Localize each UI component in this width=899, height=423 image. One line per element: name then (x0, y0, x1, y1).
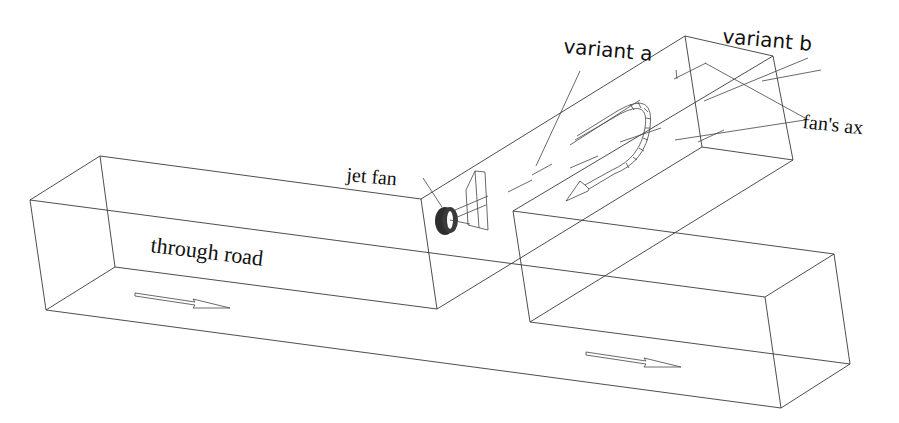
tunnel-wireframe: through road jet fan variant a variant b… (0, 0, 899, 423)
fan-axis-markers (508, 63, 821, 192)
through-road-box-left (30, 156, 781, 408)
label-variant-b: variant b (722, 24, 813, 56)
branch-tunnel-box (421, 36, 793, 322)
label-through-road: through road (149, 232, 264, 271)
flow-arrow-left (135, 293, 230, 308)
diagram-canvas: through road jet fan variant a variant b… (0, 0, 899, 423)
through-road-box-right (513, 211, 850, 408)
jet-fan (435, 171, 488, 235)
leader-lines (423, 58, 808, 207)
flow-arrow-right (586, 352, 681, 367)
label-fans-ax: fan's ax (802, 110, 865, 138)
label-jet-fan: jet fan (345, 163, 398, 190)
label-variant-a: variant a (563, 34, 654, 66)
